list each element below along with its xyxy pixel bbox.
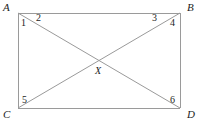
angle-label-5: 5 xyxy=(22,95,27,105)
angle-label-2: 2 xyxy=(36,13,41,23)
vertex-label-C: C xyxy=(3,109,10,120)
vertex-label-D: D xyxy=(187,109,195,120)
angle-label-4: 4 xyxy=(170,18,175,28)
angle-label-6: 6 xyxy=(170,95,175,105)
vertex-label-A: A xyxy=(3,2,10,13)
vertex-label-B: B xyxy=(187,2,194,13)
intersection-label-X: X xyxy=(95,66,101,76)
diagonals xyxy=(18,13,180,108)
angle-label-3: 3 xyxy=(152,13,157,23)
geometry-figure: A B C D 1 2 3 4 5 6 X xyxy=(0,0,202,125)
angle-label-1: 1 xyxy=(21,18,26,28)
